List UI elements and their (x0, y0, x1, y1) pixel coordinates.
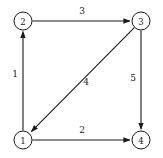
graph-figure: 2 3 1 4 3 1 4 5 2 (0, 0, 163, 158)
node-3-label: 3 (138, 17, 143, 27)
edge-label-3-to-4: 5 (130, 73, 136, 83)
node-2-label: 2 (20, 17, 25, 27)
node-4-label: 4 (138, 136, 143, 146)
edge-label-1-to-4: 2 (79, 125, 85, 135)
node-1-label: 1 (20, 136, 25, 146)
edge-label-2-to-3: 3 (79, 6, 85, 16)
edge-label-3-to-1: 4 (83, 77, 89, 87)
edge-label-1-to-2: 1 (12, 69, 18, 79)
graph-canvas: 2 3 1 4 3 1 4 5 2 (0, 0, 163, 158)
